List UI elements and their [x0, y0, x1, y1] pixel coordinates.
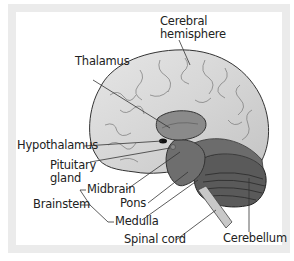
thalamus-shape: [156, 111, 206, 140]
label-pons: Pons: [120, 197, 146, 210]
label-brainstem: Brainstem: [33, 198, 90, 211]
label-midbrain: Midbrain: [87, 183, 135, 196]
label-thalamus: Thalamus: [75, 55, 130, 68]
label-cerebellum: Cerebellum: [223, 232, 287, 245]
label-medulla: Medulla: [115, 215, 159, 228]
pituitary-shape: [171, 145, 176, 150]
label-spinal-cord: Spinal cord: [124, 233, 186, 246]
label-cerebral-hemisphere-2: hemisphere: [160, 28, 226, 41]
label-pituitary-2: gland: [50, 172, 81, 185]
label-hypothalamus: Hypothalamus: [17, 139, 98, 152]
